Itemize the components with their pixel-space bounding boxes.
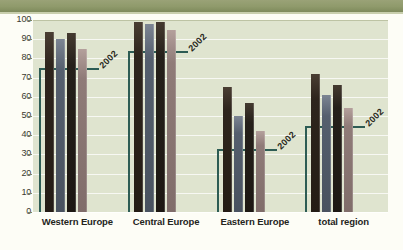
reference-stem <box>128 51 130 212</box>
chart-page: 1009080706050403020100 2002200220022002 … <box>0 0 403 250</box>
y-tick-40 <box>28 135 32 136</box>
bar-group-0: 2002 <box>33 20 122 212</box>
bar-group-3: 2002 <box>299 20 388 212</box>
gridline-0 <box>33 212 388 213</box>
bar-2-1 <box>234 116 243 212</box>
y-tick-20 <box>28 174 32 175</box>
reference-stem <box>217 149 219 212</box>
y-tick-30 <box>28 154 32 155</box>
y-tick-90 <box>28 39 32 40</box>
y-tick-100 <box>28 20 32 21</box>
bar-1-0 <box>134 22 143 212</box>
y-tick-label-80: 80 <box>3 53 31 62</box>
bar-3-3 <box>344 108 353 212</box>
y-tick-label-0: 0 <box>3 207 31 216</box>
bar-0-0 <box>45 32 54 212</box>
y-tick-label-40: 40 <box>3 130 31 139</box>
y-tick-80 <box>28 58 32 59</box>
y-axis: 1009080706050403020100 <box>0 20 31 212</box>
y-tick-label-90: 90 <box>3 34 31 43</box>
bar-3-0 <box>311 74 320 212</box>
y-tick-label-20: 20 <box>3 169 31 178</box>
y-tick-label-30: 30 <box>3 149 31 158</box>
y-tick-10 <box>28 193 32 194</box>
y-tick-label-70: 70 <box>3 73 31 82</box>
y-tick-50 <box>28 116 32 117</box>
y-tick-60 <box>28 97 32 98</box>
bar-0-3 <box>78 49 87 212</box>
reference-stem <box>39 68 41 212</box>
bar-2-3 <box>256 131 265 212</box>
category-label-2: Eastern Europe <box>211 216 300 227</box>
plot-area: 2002200220022002 <box>33 20 388 212</box>
bar-0-2 <box>67 33 76 212</box>
bar-2-0 <box>223 87 232 212</box>
reference-stem <box>305 126 307 212</box>
y-tick-label-60: 60 <box>3 92 31 101</box>
bar-0-1 <box>56 39 65 212</box>
category-axis-labels: Western EuropeCentral EuropeEastern Euro… <box>33 216 388 236</box>
top-banner <box>0 0 403 12</box>
y-tick-label-50: 50 <box>3 111 31 120</box>
bar-1-2 <box>156 22 165 212</box>
reference-label-2002: 2002 <box>275 129 297 151</box>
category-label-1: Central Europe <box>122 216 211 227</box>
bar-1-1 <box>145 24 154 212</box>
bar-1-3 <box>167 30 176 212</box>
bar-2-2 <box>245 103 254 212</box>
y-tick-label-10: 10 <box>3 188 31 197</box>
y-tick-0 <box>28 212 32 213</box>
bar-3-1 <box>322 95 331 212</box>
reference-label-2002: 2002 <box>97 48 119 70</box>
bar-group-1: 2002 <box>122 20 211 212</box>
bar-group-2: 2002 <box>211 20 300 212</box>
y-tick-label-100: 100 <box>3 15 31 24</box>
y-tick-70 <box>28 78 32 79</box>
banner-edge <box>0 12 403 14</box>
reference-label-2002: 2002 <box>186 31 208 53</box>
category-label-0: Western Europe <box>33 216 122 227</box>
category-label-3: total region <box>299 216 388 227</box>
bar-3-2 <box>333 85 342 212</box>
reference-label-2002: 2002 <box>364 106 386 128</box>
